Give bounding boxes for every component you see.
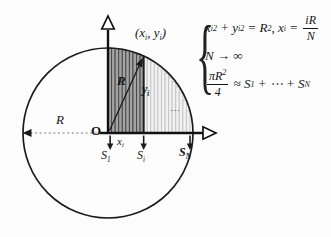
riemann-bar-dark <box>122 50 126 133</box>
formula-block: xi2 + yi2 = R2, xi = iR N N → ∞ πR2 4 ≈ … <box>205 11 331 102</box>
point-coordinates-label: (xi, yi) <box>135 26 166 42</box>
radius-label: R <box>117 74 126 87</box>
riemann-bar-light <box>165 73 169 133</box>
formula-line-1: xi2 + yi2 = R2, xi = iR N <box>205 11 331 45</box>
fraction-piR2-over-4: πR2 4 <box>207 69 228 98</box>
left-brace: { <box>196 8 204 106</box>
riemann-bar-light <box>161 70 165 133</box>
origin-label: O <box>91 124 101 137</box>
riemann-bar-dark <box>115 49 119 133</box>
riemann-bar-dark <box>119 49 123 133</box>
si-label: Si <box>137 149 145 164</box>
riemann-bar-dark <box>129 52 133 133</box>
riemann-bar-light <box>151 62 155 133</box>
xi-label: xi <box>117 136 124 149</box>
point-label-open: (x <box>135 25 145 40</box>
riemann-bar-light <box>183 100 187 133</box>
s1-label: S1 <box>101 149 111 164</box>
ellipsis-label: ⋯ <box>170 106 180 116</box>
fraction-iR-over-N: iR N <box>303 14 318 42</box>
formula-line-2: N → ∞ <box>205 46 331 65</box>
riemann-quarter-circle-figure: (xi, yi) R yi R O xi S1 Si SN ⋯ { xi2 + … <box>0 0 331 237</box>
riemann-bar-light <box>158 67 162 133</box>
riemann-bar-dark <box>133 53 137 133</box>
y-axis-arrowhead <box>102 16 114 29</box>
formula-line-3: πR2 4 ≈ S1 + ⋯ + SN <box>205 66 331 102</box>
horizontal-radius-label: R <box>56 113 64 126</box>
x-axis-arrowhead <box>203 127 216 139</box>
riemann-bar-light <box>154 64 158 133</box>
sn-label: SN <box>179 146 191 161</box>
yi-label: yi <box>142 83 149 98</box>
riemann-bar-light <box>186 111 190 133</box>
